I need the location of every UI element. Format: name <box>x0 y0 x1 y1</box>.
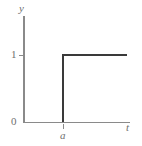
origin-tick-label: 0 <box>11 116 17 127</box>
y-axis-line <box>23 16 25 123</box>
step-curve-vertical-segment <box>62 55 64 122</box>
y-axis-tick-one <box>19 55 24 56</box>
y-axis-label: y <box>19 3 24 14</box>
x-axis-line <box>23 122 130 124</box>
y-tick-label-one: 1 <box>11 49 17 60</box>
x-axis-tick-a <box>63 124 64 129</box>
x-tick-label-a: a <box>60 130 66 141</box>
x-axis-label: t <box>126 122 129 133</box>
step-curve-plateau-segment <box>62 54 127 56</box>
step-function-figure: y t 0 1 a <box>0 0 142 146</box>
